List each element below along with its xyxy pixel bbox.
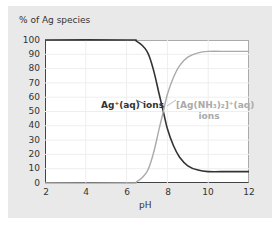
y-tick: 70: [14, 78, 40, 88]
x-tick: 8: [158, 187, 178, 197]
y-tick: 60: [14, 92, 40, 102]
x-tick: 2: [36, 187, 56, 197]
y-tick: 100: [14, 35, 40, 45]
x-tick: 6: [117, 187, 137, 197]
y-tick: 50: [14, 106, 40, 116]
y-tick: 80: [14, 63, 40, 73]
x-axis-title: pH: [139, 200, 151, 210]
complex-ion-label-line2: ions: [176, 111, 242, 122]
y-tick: 10: [14, 163, 40, 173]
y-tick: 90: [14, 49, 40, 59]
x-tick: 10: [198, 187, 218, 197]
y-axis-title: % of Ag species: [19, 15, 90, 25]
y-tick: 30: [14, 135, 40, 145]
x-tick: 4: [76, 187, 96, 197]
y-tick: 20: [14, 149, 40, 159]
y-tick: 40: [14, 120, 40, 130]
complex-ion-label: [Ag(NH₃)₂]⁺(aq) ions: [176, 100, 242, 122]
complex-ion-label-line1: [Ag(NH₃)₂]⁺(aq): [176, 100, 242, 111]
complex-leader-line: [167, 100, 176, 106]
x-tick: 12: [239, 187, 259, 197]
ag-ion-label: Ag⁺(aq) ions: [101, 100, 164, 110]
